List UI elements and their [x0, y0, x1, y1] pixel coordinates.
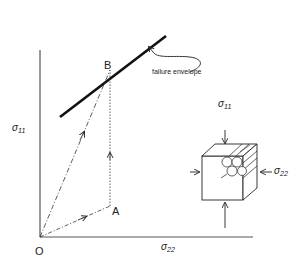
- top-load-label: σ11: [218, 98, 231, 110]
- y-axis-label: σ11: [12, 122, 25, 134]
- side-load-label: σ22: [274, 165, 288, 177]
- point-b-label: B: [104, 59, 111, 71]
- path-o-to-b: [40, 70, 110, 237]
- x-axis-label: σ22: [161, 241, 175, 253]
- arrow-o-to-a-icon: [78, 217, 86, 221]
- failure-envelope-diagram: B A O failure envelope σ11 σ22: [0, 0, 301, 265]
- annotation-label: failure envelope: [152, 68, 202, 76]
- arrow-o-to-b-icon: [80, 132, 84, 140]
- composite-element-cube: [202, 144, 257, 200]
- point-a-label: A: [112, 205, 120, 217]
- origin-label: O: [35, 245, 44, 257]
- path-o-to-a: [40, 206, 110, 237]
